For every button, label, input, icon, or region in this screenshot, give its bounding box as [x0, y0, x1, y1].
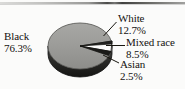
pie-label-asian: Asian 2.5%: [120, 59, 145, 82]
pie-label-white-percent: 12.7%: [118, 25, 146, 37]
pie-chart-figure: Black 76.3% White 12.7% Mixed race 8.5% …: [0, 0, 185, 89]
pie-label-black-percent: 76.3%: [4, 43, 32, 55]
pie-label-mixed-race: Mixed race 8.5%: [126, 37, 175, 60]
pie-label-black: Black 76.3%: [4, 31, 32, 54]
pie-label-asian-name: Asian: [120, 58, 145, 70]
pie-label-asian-percent: 2.5%: [120, 71, 145, 83]
leader-line-white: [104, 22, 117, 36]
pie-label-white-name: White: [118, 12, 144, 24]
pie-label-mixed-race-name: Mixed race: [126, 36, 175, 48]
pie-label-black-name: Black: [4, 30, 29, 42]
pie-label-white: White 12.7%: [118, 13, 146, 36]
